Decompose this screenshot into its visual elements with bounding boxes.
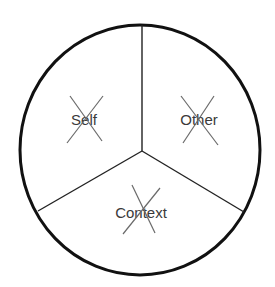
segment-label-context: Context — [115, 204, 168, 221]
segment-other: Other — [180, 96, 218, 145]
segment-self: Self — [67, 96, 103, 143]
divider-right — [142, 151, 244, 212]
three-segment-circle-diagram: Self Other Context — [0, 0, 275, 287]
divider-left — [38, 151, 142, 211]
circle-outline — [20, 25, 260, 275]
segment-context: Context — [115, 185, 168, 234]
